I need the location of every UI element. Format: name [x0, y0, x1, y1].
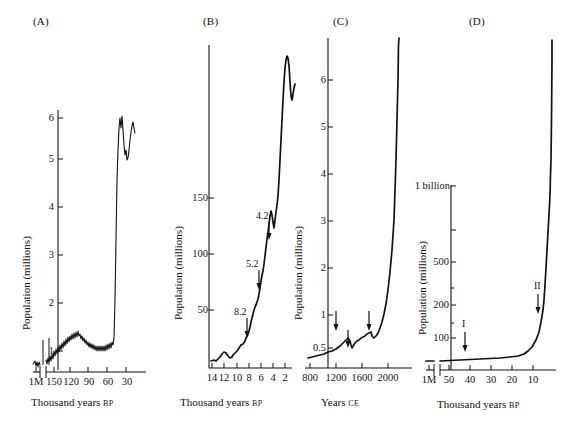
panel-d-xtick-40: 40 [460, 374, 480, 385]
panel-c-ytick-1: 1 [307, 309, 326, 320]
panel-a-ytick-5: 5 [38, 153, 54, 164]
panel-a-plot [0, 0, 150, 439]
panel-c-xlabel-small: CE [348, 399, 359, 408]
panel-c-xlabel-main: Years [321, 396, 346, 408]
panel-a-ytick-3: 3 [38, 249, 54, 260]
panel-a-ytick-2: 2 [38, 297, 54, 308]
panel-d-annotation-i: I [462, 318, 465, 329]
panel-c-xtick-1600: 1600 [348, 372, 376, 383]
panel-a-ytick-1: 1 [38, 345, 54, 356]
panel-b-ytick-100: 100 [183, 248, 208, 259]
panel-a-ytick-4: 4 [38, 201, 54, 212]
panel-a-xlabel-main: Thousand years [31, 396, 100, 408]
panel-d-xlabel: Thousand years BP [437, 398, 519, 410]
panel-d-xtick-10: 10 [523, 374, 543, 385]
panel-b-xlabel: Thousand years BP [180, 396, 262, 408]
panel-d-ytick-500: 500 [424, 256, 449, 267]
panel-c-xlabel: Years CE [321, 396, 359, 408]
panel-b-annotation-5-2: 5.2 [246, 258, 259, 269]
panel-b-ylabel: Population (millions) [172, 226, 184, 320]
panel-d-annotation-ii: II [534, 280, 541, 291]
panel-b-xlabel-main: Thousand years [180, 396, 249, 408]
panel-c-xtick-800: 800 [298, 372, 322, 383]
panel-d-ytick-200: 200 [424, 299, 449, 310]
panel-a: (A) [0, 0, 150, 439]
panel-c-ytick-3: 3 [307, 215, 326, 226]
panel-b-ytick-150: 150 [183, 192, 208, 203]
panel-a-svg [0, 0, 150, 439]
panel-c-xtick-2000: 2000 [374, 372, 402, 383]
panel-c-ytick-2: 2 [307, 262, 326, 273]
panel-b-annotation-4-2: 4.2 [256, 210, 269, 221]
panel-b-annotation-8-2: 8.2 [234, 306, 247, 317]
panel-a-xlabel: Thousand years BP [31, 396, 113, 408]
panel-b: (B) [150, 0, 295, 439]
panel-d-xtick-30: 30 [481, 374, 501, 385]
panel-d-xtick-20: 20 [502, 374, 522, 385]
panel-c-ytick-5: 5 [307, 121, 326, 132]
panel-a-xtick-30: 30 [115, 376, 139, 387]
panel-a-ylabel: Population (millions) [20, 236, 32, 330]
panel-d-xlabel-main: Thousand years [437, 398, 506, 410]
panel-d-xtick-1m: 1M [417, 374, 441, 385]
panel-c-ytick-6: 6 [307, 74, 326, 85]
panel-d-ytick-1billion: 1 billion [410, 180, 450, 191]
panel-d-ytick-100: 100 [424, 332, 449, 343]
panel-c-ytick-05: 0.5 [300, 342, 326, 353]
panel-b-xlabel-small: BP [252, 399, 262, 408]
panel-d-xtick-50: 50 [439, 374, 459, 385]
panel-d: (D) [410, 0, 574, 439]
panel-c: (C) [290, 0, 425, 439]
panel-a-ytick-6: 6 [38, 112, 54, 123]
population-figure: (A) [0, 0, 574, 439]
panel-c-ylabel: Population (millions) [292, 226, 304, 320]
panel-a-xlabel-small: BP [103, 399, 113, 408]
panel-d-xlabel-small: BP [509, 401, 519, 410]
panel-c-ytick-4: 4 [307, 168, 326, 179]
panel-b-ytick-50: 50 [186, 304, 208, 315]
panel-c-xtick-1200: 1200 [322, 372, 350, 383]
